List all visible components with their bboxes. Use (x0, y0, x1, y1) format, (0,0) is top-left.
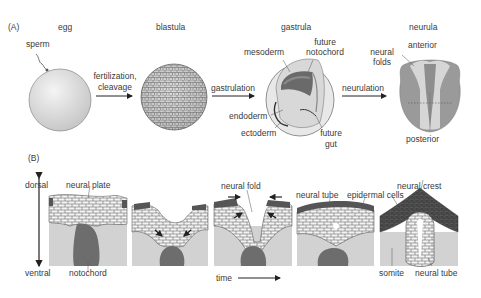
section-neural-tube (297, 201, 374, 266)
stage-gastrula: gastrula (281, 22, 311, 32)
label-mesoderm: mesoderm (244, 47, 284, 57)
label-future-gut-2: gut (316, 139, 346, 149)
label-ventral: ventral (25, 268, 51, 278)
label-neural-folds-2: folds (362, 57, 402, 67)
label-endoderm: endoderm (229, 111, 267, 121)
stage-neurula: neurula (409, 22, 437, 32)
label-posterior: posterior (406, 134, 439, 144)
label-neural-plate: neural plate (66, 180, 110, 190)
label-sperm: sperm (26, 39, 50, 49)
label-cleavage: cleavage (92, 82, 138, 92)
label-somite: somite (379, 268, 404, 278)
stage-blastula: blastula (156, 22, 185, 32)
label-neural-fold: neural fold (221, 181, 261, 191)
gastrula-illustration (266, 59, 334, 136)
section-neural-fold (214, 197, 292, 266)
neural-fold-leader (247, 190, 252, 212)
section-neural-plate (49, 195, 127, 266)
neurula-illustration (400, 60, 460, 132)
label-epidermal-cells: epidermal cells (347, 190, 404, 200)
section-folding-start (132, 202, 208, 266)
label-future-notochord-2: notochord (300, 47, 350, 57)
label-neural-tube-top: neural tube (296, 190, 339, 200)
blastula-illustration (141, 64, 207, 130)
panel-b-label: (B) (28, 153, 39, 163)
panel-a-label: (A) (8, 22, 19, 32)
egg-illustration (29, 54, 91, 131)
label-anterior: anterior (408, 40, 437, 50)
label-gastrulation: gastrulation (211, 83, 255, 93)
label-future-gut-1: future (316, 128, 346, 138)
stage-egg: egg (58, 22, 72, 32)
label-ectoderm: ectoderm (241, 128, 276, 138)
label-notochord: notochord (69, 268, 107, 278)
label-time: time (216, 273, 232, 283)
label-neural-tube-bottom: neural tube (415, 268, 458, 278)
label-future-notochord-1: future (300, 37, 350, 47)
label-neural-crest: neural crest (397, 181, 441, 191)
label-fertilization: fertilization, (92, 71, 138, 81)
label-dorsal: dorsal (25, 180, 48, 190)
label-neural-folds-1: neural (362, 47, 402, 57)
label-neurulation: neurulation (342, 83, 384, 93)
